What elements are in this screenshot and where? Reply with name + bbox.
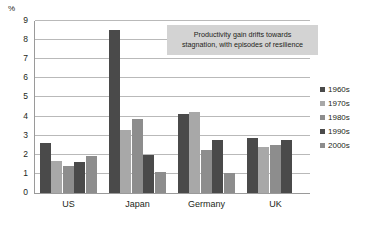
- y-axis-tick-label: 1: [0, 169, 28, 178]
- bar: [155, 172, 166, 193]
- legend-item[interactable]: 1960s: [320, 82, 350, 96]
- annotation-line-2: stagnation, with episodes of resilience: [182, 40, 303, 49]
- legend-swatch-icon: [320, 129, 325, 134]
- bar: [258, 147, 269, 193]
- legend-item-label: 2000s: [328, 141, 350, 150]
- bar: [212, 140, 223, 194]
- x-axis-tick-label: UK: [241, 199, 310, 210]
- legend-item-label: 1990s: [328, 127, 350, 136]
- legend-swatch-icon: [320, 101, 325, 106]
- y-axis-tick-label: 2: [0, 150, 28, 159]
- bar: [86, 156, 97, 193]
- bar: [281, 140, 292, 193]
- bar: [189, 112, 200, 193]
- legend: 1960s1970s1980s1990s2000s: [320, 82, 350, 152]
- bar: [224, 173, 235, 193]
- y-axis-tick-label: 5: [0, 92, 28, 101]
- legend-item-label: 1970s: [328, 99, 350, 108]
- legend-item[interactable]: 1980s: [320, 110, 350, 124]
- bar: [270, 145, 281, 193]
- bar: [74, 162, 85, 193]
- bar: [109, 30, 120, 193]
- legend-item-label: 1980s: [328, 113, 350, 122]
- bar: [132, 119, 143, 193]
- legend-swatch-icon: [320, 87, 325, 92]
- bar-group: [103, 21, 172, 193]
- y-axis-tick-label: 9: [0, 16, 28, 25]
- y-axis-tick-label: 8: [0, 35, 28, 44]
- bar: [143, 155, 154, 193]
- bar-group: [34, 21, 103, 193]
- bar: [40, 143, 51, 193]
- legend-swatch-icon: [320, 115, 325, 120]
- bar: [51, 161, 62, 193]
- x-axis-tick-label: US: [34, 199, 103, 210]
- y-axis-tick-label: 6: [0, 73, 28, 82]
- legend-item-label: 1960s: [328, 85, 350, 94]
- bar: [247, 138, 258, 193]
- bar: [63, 166, 74, 193]
- legend-item[interactable]: 1990s: [320, 124, 350, 138]
- x-axis-tick-label: Germany: [172, 199, 241, 210]
- legend-swatch-icon: [320, 143, 325, 148]
- annotation-line-1: Productivity gain drifts towards: [194, 30, 291, 39]
- y-axis-tick-label: 4: [0, 112, 28, 121]
- y-axis-tick-label: 0: [0, 188, 28, 197]
- bar: [120, 130, 131, 193]
- bar: [178, 114, 189, 193]
- annotation-callout: Productivity gain drifts towards stagnat…: [167, 25, 318, 55]
- legend-item[interactable]: 1970s: [320, 96, 350, 110]
- legend-item[interactable]: 2000s: [320, 138, 350, 152]
- bar: [201, 150, 212, 193]
- x-axis-tick-label: Japan: [103, 199, 172, 210]
- bar-chart: % 0123456789 USJapanGermanyUK Productivi…: [0, 0, 370, 238]
- y-axis-tick-label: 7: [0, 54, 28, 63]
- y-axis-tick-label: 3: [0, 131, 28, 140]
- y-axis-unit-label: %: [8, 4, 15, 14]
